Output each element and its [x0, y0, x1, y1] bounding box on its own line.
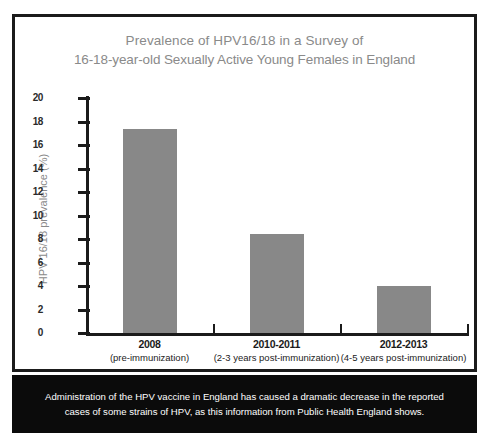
- caption-line-1: Administration of the HPV vaccine in Eng…: [45, 389, 444, 404]
- y-axis-tick: [78, 309, 90, 312]
- figure-root: Prevalence of HPV16/18 in a Survey of 16…: [0, 0, 489, 437]
- y-axis-tick: [78, 285, 90, 288]
- caption-banner: Administration of the HPV vaccine in Eng…: [12, 375, 477, 433]
- x-axis-category-labels: 2008(pre-immunization)2010-2011(2-3 year…: [86, 338, 467, 374]
- caption-line-2: cases of some strains of HPV, as this in…: [45, 404, 444, 419]
- y-axis-tick: [78, 191, 90, 194]
- x-axis-category-sublabel: (4-5 years post-immunization): [340, 351, 467, 364]
- y-axis-tick: [78, 215, 90, 218]
- x-axis-tick: [213, 324, 215, 336]
- y-axis-tick-label: 20: [3, 92, 43, 103]
- caption-text: Administration of the HPV vaccine in Eng…: [45, 389, 444, 419]
- x-axis-category-year: 2008: [86, 338, 213, 351]
- y-axis-tick-label: 0: [3, 327, 43, 338]
- x-axis-category-year: 2012-2013: [340, 338, 467, 351]
- y-axis-tick-label: 4: [3, 280, 43, 291]
- y-axis-tick: [78, 262, 90, 265]
- x-axis-category-year: 2010-2011: [213, 338, 340, 351]
- bar: [377, 286, 431, 333]
- x-axis-tick: [467, 324, 469, 336]
- y-axis-tick: [78, 144, 90, 147]
- y-axis-tick: [78, 332, 90, 335]
- chart-panel: Prevalence of HPV16/18 in a Survey of 16…: [12, 14, 477, 372]
- bar: [250, 234, 304, 333]
- y-axis-tick-label: 16: [3, 139, 43, 150]
- x-axis-category-sublabel: (2-3 years post-immunization): [213, 351, 340, 364]
- y-axis-tick: [78, 121, 90, 124]
- x-axis-category: 2008(pre-immunization): [86, 338, 213, 364]
- y-axis-tick-label: 10: [3, 210, 43, 221]
- y-axis-tick: [78, 97, 90, 100]
- y-axis-tick-label: 18: [3, 116, 43, 127]
- x-axis-category: 2012-2013(4-5 years post-immunization): [340, 338, 467, 364]
- y-axis-tick: [78, 238, 90, 241]
- plot-area: HPV 16/18 prevalence (%) 024681012141618…: [15, 17, 474, 369]
- y-axis-tick-label: 6: [3, 257, 43, 268]
- x-axis-category-sublabel: (pre-immunization): [86, 351, 213, 364]
- y-axis-tick-label: 8: [3, 233, 43, 244]
- y-axis-tick-label: 12: [3, 186, 43, 197]
- x-axis-tick: [340, 324, 342, 336]
- bar: [123, 129, 177, 333]
- x-axis-line: [86, 333, 467, 336]
- y-axis-tick-label: 2: [3, 304, 43, 315]
- y-axis-tick: [78, 168, 90, 171]
- y-axis-tick-label: 14: [3, 163, 43, 174]
- x-axis-category: 2010-2011(2-3 years post-immunization): [213, 338, 340, 364]
